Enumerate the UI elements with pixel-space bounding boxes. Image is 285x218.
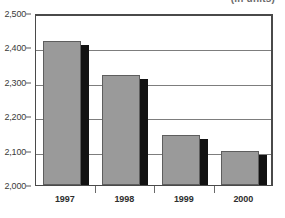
bar-body [102, 75, 140, 185]
bar-shadow [81, 45, 89, 185]
x-tick-mark [95, 186, 96, 193]
bar-body [162, 135, 200, 185]
x-axis-ticks [35, 186, 273, 193]
x-tick-label: 1998 [114, 194, 134, 204]
bar-shadow [259, 155, 267, 185]
bar-1998 [102, 75, 148, 185]
units-caption: (in units) [231, 0, 275, 4]
bar-chart-figure: (in units) 2,5002,4002,3002,2002,1002,00… [0, 0, 285, 218]
x-axis: 1997199819992000 [35, 194, 273, 210]
x-tick-label: 1999 [174, 194, 194, 204]
bar-body [221, 151, 259, 185]
y-tick-label: 2,200 [4, 112, 26, 122]
y-tick-mark [26, 48, 31, 49]
y-axis: 2,5002,4002,3002,2002,1002,000 [0, 14, 31, 186]
y-tick-label: 2,400 [4, 43, 26, 53]
y-tick-mark [26, 14, 31, 15]
x-tick-label: 2000 [233, 194, 253, 204]
y-tick-label: 2,300 [4, 78, 26, 88]
y-tick-mark [26, 117, 31, 118]
x-tick-label: 1997 [55, 194, 75, 204]
bar-2000 [221, 151, 267, 185]
bar-shadow [140, 79, 148, 185]
bar-shadow [200, 139, 208, 185]
bars-container [36, 16, 271, 185]
y-tick-label: 2,100 [4, 147, 26, 157]
y-tick-mark [26, 186, 31, 187]
y-tick-mark [26, 151, 31, 152]
plot-area [35, 14, 273, 186]
bar-body [43, 41, 81, 185]
x-tick-mark [154, 186, 155, 193]
x-tick-mark [214, 186, 215, 193]
bar-1999 [162, 135, 208, 185]
y-tick-mark [26, 82, 31, 83]
y-tick-label: 2,500 [4, 9, 26, 19]
bar-1997 [43, 41, 89, 185]
y-tick-label: 2,000 [4, 181, 26, 191]
